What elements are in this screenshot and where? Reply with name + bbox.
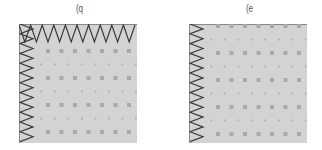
panel-label-right: (e	[246, 3, 253, 14]
panel-right	[189, 24, 307, 143]
pattern-diagram-left	[19, 24, 137, 143]
pattern-diagram-right	[189, 24, 307, 143]
panel-left	[19, 24, 137, 143]
panel-label-left: (q	[76, 3, 83, 14]
